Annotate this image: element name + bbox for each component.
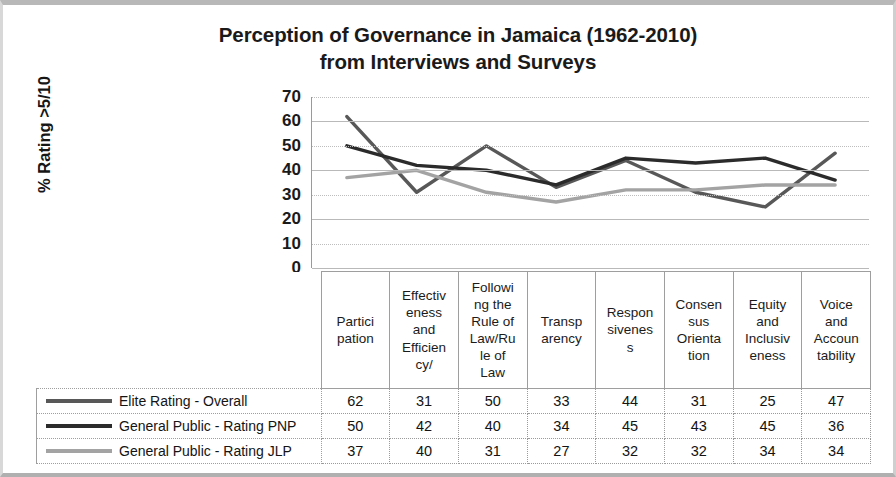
value-cell: 31 bbox=[458, 439, 527, 464]
series-line-0 bbox=[347, 117, 835, 207]
value-cell: 27 bbox=[527, 439, 596, 464]
legend-label-2: General Public - Rating JLP bbox=[119, 444, 292, 460]
gridline-0 bbox=[312, 268, 869, 269]
value-cell: 32 bbox=[596, 439, 665, 464]
gridline-60 bbox=[312, 121, 869, 122]
category-header-3: Transparency bbox=[527, 272, 596, 389]
y-axis-tick-10: 10 bbox=[282, 233, 301, 253]
value-cell: 45 bbox=[596, 414, 665, 439]
value-cell: 40 bbox=[390, 439, 459, 464]
value-cell: 42 bbox=[390, 414, 459, 439]
table-corner-cell bbox=[37, 272, 322, 389]
legend-entry-0[interactable]: Elite Rating - Overall bbox=[37, 389, 322, 414]
category-header-1: EffectivenessandEfficiency/ bbox=[390, 272, 459, 389]
category-header-7: VoiceandAccountability bbox=[802, 272, 871, 389]
category-header-2: Following theRule ofLaw/Rule ofLaw bbox=[458, 272, 527, 389]
category-header-5: ConsensusOrientation bbox=[664, 272, 733, 389]
plot-area bbox=[311, 97, 869, 268]
legend-label-0: Elite Rating - Overall bbox=[119, 394, 247, 410]
gridline-50 bbox=[312, 146, 869, 147]
y-axis-tick-40: 40 bbox=[282, 160, 301, 180]
legend-entry-2[interactable]: General Public - Rating JLP bbox=[37, 439, 322, 464]
value-cell: 31 bbox=[390, 389, 459, 414]
gridline-30 bbox=[312, 195, 869, 196]
legend-swatch-icon-2 bbox=[46, 449, 112, 453]
plot-lines bbox=[312, 97, 870, 268]
value-cell: 34 bbox=[802, 439, 871, 464]
y-axis-tick-70: 70 bbox=[282, 87, 301, 107]
value-cell: 45 bbox=[733, 414, 802, 439]
category-header-4: Responsiveness bbox=[596, 272, 665, 389]
y-axis-tick-labels: 706050403020100 bbox=[251, 97, 305, 275]
table-row: General Public - Rating PNP5042403445434… bbox=[37, 414, 871, 439]
value-cell: 50 bbox=[458, 389, 527, 414]
chart-title-line-2: from Interviews and Surveys bbox=[113, 48, 803, 75]
value-cell: 36 bbox=[802, 414, 871, 439]
legend-swatch-icon-0 bbox=[46, 399, 112, 403]
value-cell: 34 bbox=[527, 414, 596, 439]
value-cell: 62 bbox=[321, 389, 390, 414]
gridline-10 bbox=[312, 244, 869, 245]
value-cell: 33 bbox=[527, 389, 596, 414]
y-axis-tick-30: 30 bbox=[282, 184, 301, 204]
legend-swatch-icon-1 bbox=[46, 424, 112, 428]
table-row: General Public - Rating JLP3740312732323… bbox=[37, 439, 871, 464]
y-axis-title: % Rating >5/10 bbox=[35, 50, 54, 220]
value-cell: 32 bbox=[664, 439, 733, 464]
chart-data-table: ParticipationEffectivenessandEfficiency/… bbox=[36, 271, 871, 464]
value-cell: 25 bbox=[733, 389, 802, 414]
y-axis-tick-20: 20 bbox=[282, 209, 301, 229]
table-row: Elite Rating - Overall6231503344312547 bbox=[37, 389, 871, 414]
category-header-6: EquityandInclusiveness bbox=[733, 272, 802, 389]
value-cell: 37 bbox=[321, 439, 390, 464]
value-cell: 34 bbox=[733, 439, 802, 464]
plot-region: 706050403020100 bbox=[251, 97, 871, 275]
value-cell: 44 bbox=[596, 389, 665, 414]
value-cell: 43 bbox=[664, 414, 733, 439]
chart-frame: Perception of Governance in Jamaica (196… bbox=[0, 0, 896, 477]
table-header-row: ParticipationEffectivenessandEfficiency/… bbox=[37, 272, 871, 389]
category-header-0: Participation bbox=[321, 272, 390, 389]
y-axis-tick-60: 60 bbox=[282, 111, 301, 131]
y-axis-tick-50: 50 bbox=[282, 135, 301, 155]
chart-title-line-1: Perception of Governance in Jamaica (196… bbox=[113, 21, 803, 48]
chart-title: Perception of Governance in Jamaica (196… bbox=[113, 21, 803, 76]
series-line-1 bbox=[347, 146, 835, 185]
gridline-40 bbox=[312, 170, 869, 171]
value-cell: 40 bbox=[458, 414, 527, 439]
gridline-70 bbox=[312, 97, 869, 98]
legend-entry-1[interactable]: General Public - Rating PNP bbox=[37, 414, 322, 439]
legend-label-1: General Public - Rating PNP bbox=[119, 419, 296, 435]
gridline-20 bbox=[312, 219, 869, 220]
value-cell: 47 bbox=[802, 389, 871, 414]
value-cell: 50 bbox=[321, 414, 390, 439]
value-cell: 31 bbox=[664, 389, 733, 414]
